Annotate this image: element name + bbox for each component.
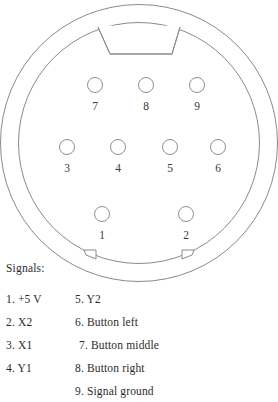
pin-number-1: 1: [94, 229, 110, 241]
legend-item-8: 8. Button right: [75, 357, 265, 380]
legend-item-2: 2. X2: [6, 311, 76, 334]
pin-number-3: 3: [59, 162, 75, 174]
pin-socket-7[interactable]: [88, 78, 103, 93]
keyway-notch: [98, 27, 180, 54]
pin-socket-2[interactable]: [179, 207, 194, 222]
legend-column-right: 5. Y2 6. Button left 7. Button middle 8.…: [75, 288, 265, 402]
legend-item-1: 1. +5 V: [6, 288, 76, 311]
legend-item-7: 7. Button middle: [75, 334, 265, 357]
legend-item-6: 6. Button left: [75, 311, 265, 334]
pin-number-6: 6: [210, 162, 226, 174]
pin-socket-6[interactable]: [211, 140, 226, 155]
legend-item-9: 9. Signal ground: [75, 380, 265, 402]
legend-heading: Signals:: [6, 262, 45, 274]
legend-item-3: 3. X1: [6, 334, 76, 357]
pin-socket-8[interactable]: [139, 78, 154, 93]
pin-number-2: 2: [178, 229, 194, 241]
legend-item-5: 5. Y2: [75, 288, 265, 311]
connector-diagram: [0, 0, 278, 300]
bottom-left-tab: [84, 250, 96, 259]
pin-socket-9[interactable]: [190, 78, 205, 93]
signal-legend: Signals: 1. +5 V 2. X2 3. X1 4. Y1 5. Y2…: [0, 262, 278, 387]
pin-number-5: 5: [162, 162, 178, 174]
legend-column-left: 1. +5 V 2. X2 3. X1 4. Y1: [6, 288, 76, 380]
pin-socket-1[interactable]: [95, 207, 110, 222]
pin-socket-4[interactable]: [111, 140, 126, 155]
pin-socket-3[interactable]: [60, 140, 75, 155]
pin-number-7: 7: [87, 100, 103, 112]
legend-item-4: 4. Y1: [6, 357, 76, 380]
pin-socket-5[interactable]: [163, 140, 178, 155]
pin-number-8: 8: [138, 100, 154, 112]
bottom-right-tab: [182, 250, 194, 259]
pin-number-9: 9: [189, 100, 205, 112]
pin-number-4: 4: [110, 162, 126, 174]
